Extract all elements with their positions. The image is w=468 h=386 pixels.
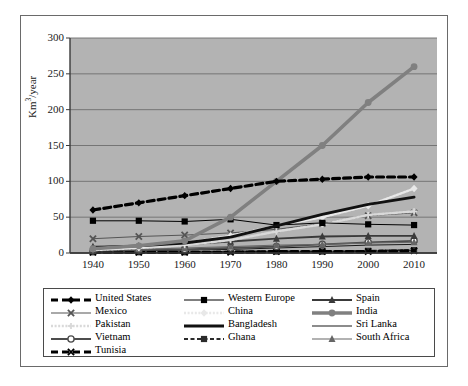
figure-root: Km3/year 050100150200250300 194019501960… — [0, 0, 468, 386]
data-marker-diamond — [200, 309, 207, 316]
legend-label-ghana: Ghana — [228, 331, 255, 343]
legend-label-spain: Spain — [356, 292, 380, 304]
legend-label-bangladesh: Bangladesh — [228, 318, 277, 330]
legend-marker-icon-ghana — [183, 331, 225, 343]
legend-item-china[interactable]: China — [183, 304, 311, 317]
data-marker-circle — [411, 63, 418, 70]
data-marker-square — [411, 222, 417, 228]
legend-item-ghana[interactable]: Ghana — [183, 330, 311, 343]
data-marker-square — [201, 335, 207, 341]
legend-marker-icon-south-africa — [311, 331, 353, 343]
legend-item-south-africa[interactable]: South Africa — [311, 330, 434, 343]
legend-swatch-tunisia — [50, 346, 92, 358]
data-marker-square — [136, 218, 142, 224]
legend-swatch-ghana — [183, 333, 225, 345]
data-marker-square — [319, 220, 325, 226]
legend-label-sri-lanka: Sri Lanka — [356, 318, 397, 330]
legend-item-pakistan[interactable]: Pakistan — [44, 317, 183, 330]
legend-label-mexico: Mexico — [95, 305, 127, 317]
legend-item-spain[interactable]: Spain — [311, 291, 434, 304]
legend-swatch-south-africa — [311, 333, 353, 345]
legend-label-south-africa: South Africa — [356, 331, 409, 343]
legend-marker-icon-western-europe — [183, 292, 225, 304]
data-marker-diamond — [68, 296, 75, 303]
legend-marker-icon-india — [311, 305, 353, 317]
legend-marker-icon-vietnam — [50, 331, 92, 343]
data-marker-circle — [90, 245, 97, 252]
legend-item-united-states[interactable]: United States — [44, 291, 183, 304]
legend-item-tunisia[interactable]: Tunisia — [44, 343, 185, 356]
legend-row: PakistanBangladeshSri Lanka — [44, 317, 434, 330]
legend-marker-icon-china — [183, 305, 225, 317]
legend-item-india[interactable]: India — [311, 304, 434, 317]
legend-marker-icon-pakistan — [50, 318, 92, 330]
legend-label-vietnam: Vietnam — [95, 331, 131, 343]
data-marker-square — [201, 296, 207, 302]
legend-label-pakistan: Pakistan — [95, 318, 131, 330]
data-marker-circle — [329, 309, 336, 316]
legend-item-western-europe[interactable]: Western Europe — [183, 291, 311, 304]
legend-label-tunisia: Tunisia — [95, 344, 126, 356]
data-marker-circle — [135, 242, 142, 249]
legend-label-western-europe: Western Europe — [228, 292, 295, 304]
legend-item-vietnam[interactable]: Vietnam — [44, 330, 183, 343]
legend-label-united-states: United States — [95, 292, 151, 304]
legend-item-bangladesh[interactable]: Bangladesh — [183, 317, 311, 330]
legend-marker-icon-tunisia — [50, 344, 92, 356]
legend-marker-icon-mexico — [50, 305, 92, 317]
legend-marker-icon-sri-lanka — [311, 318, 353, 330]
legend-label-china: China — [228, 305, 253, 317]
legend-label-india: India — [356, 305, 378, 317]
data-marker-circle-open — [68, 335, 74, 341]
data-marker-circle — [365, 99, 372, 106]
data-marker-square — [182, 218, 188, 224]
data-marker-square — [90, 218, 96, 224]
data-marker-circle — [181, 237, 188, 244]
legend-row: VietnamGhanaSouth Africa — [44, 330, 434, 343]
data-marker-circle — [319, 142, 326, 149]
data-marker-circle — [227, 214, 234, 221]
legend-row: Tunisia — [44, 343, 434, 356]
chart-legend: United StatesWestern EuropeSpainMexicoCh… — [43, 288, 435, 357]
legend-row: MexicoChinaIndia — [44, 304, 434, 317]
legend-row: United StatesWestern EuropeSpain — [44, 291, 434, 304]
legend-marker-icon-bangladesh — [183, 318, 225, 330]
legend-marker-icon-spain — [311, 292, 353, 304]
data-marker-square — [365, 221, 371, 227]
legend-marker-icon-united-states — [50, 292, 92, 304]
legend-item-sri-lanka[interactable]: Sri Lanka — [311, 317, 434, 330]
legend-item-mexico[interactable]: Mexico — [44, 304, 183, 317]
